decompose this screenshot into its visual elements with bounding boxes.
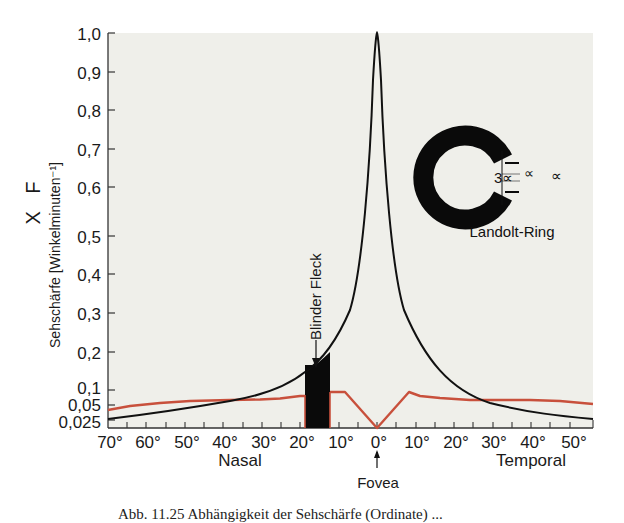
landolt-ring-label: Landolt-Ring — [469, 223, 554, 240]
x-tick-label: 30° — [481, 433, 507, 452]
x-tick-label: 30° — [251, 433, 277, 452]
y-axis-symbol: X F — [22, 175, 44, 224]
y-tick-labels: 1,0 0,9 0,8 0,7 0,6 0,5 0,4 0,3 0,2 0,1 … — [58, 25, 101, 432]
y-tick-label: 1,0 — [77, 25, 101, 44]
y-tick-label: 0,4 — [77, 266, 101, 285]
x-tick-label: 10° — [404, 433, 430, 452]
y-tick-label: 0,8 — [77, 102, 101, 121]
x-tick-label: 20° — [289, 433, 315, 452]
x-tick-label: 0° — [371, 433, 387, 452]
blind-spot-band — [305, 365, 330, 428]
x-tick-label: 60° — [135, 433, 161, 452]
x-tick-label: 50° — [561, 433, 587, 452]
landolt-gap-label: ∝ — [524, 165, 534, 181]
x-label-temporal: Temporal — [496, 451, 566, 470]
y-tick-label: 0,7 — [77, 141, 101, 160]
fovea-label: Fovea — [357, 474, 399, 491]
y-tick-label: 0,5 — [77, 228, 101, 247]
landolt-gap-outside-label: ∝ — [551, 167, 562, 184]
y-tick-label: 0,2 — [77, 344, 101, 363]
y-tick-label: 0,3 — [77, 305, 101, 324]
y-tick-label: 0,025 — [58, 413, 101, 432]
x-tick-labels: 70° 60° 50° 40° 30° 20° 10° 0° 10° 20° 3… — [97, 433, 587, 452]
y-tick-label: 0,6 — [77, 179, 101, 198]
x-tick-label: 40° — [520, 433, 546, 452]
x-tick-label: 20° — [443, 433, 469, 452]
blind-spot-label: Blinder Fleck — [307, 253, 324, 340]
x-label-nasal: Nasal — [218, 451, 261, 470]
figure-caption: Abb. 11.25 Abhängigkeit der Sehschärfe (… — [118, 506, 443, 523]
x-tick-label: 40° — [212, 433, 238, 452]
y-axis-title: Sehschärfe [Winkelminuten⁻¹] — [47, 162, 63, 348]
x-tick-label: 50° — [174, 433, 200, 452]
x-tick-label: 10° — [328, 433, 354, 452]
x-tick-label: 70° — [97, 433, 123, 452]
landolt-inner-label: 3∝ — [494, 169, 513, 186]
fovea-arrow-icon — [374, 450, 380, 468]
y-tick-label: 0,9 — [77, 64, 101, 83]
